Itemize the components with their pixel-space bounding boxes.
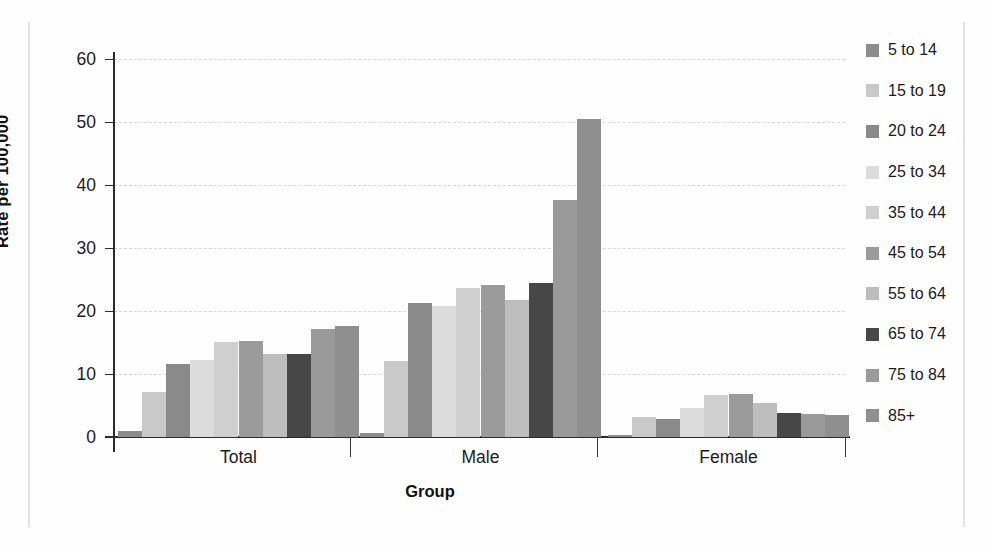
bar — [360, 433, 384, 437]
legend-swatch-icon — [866, 44, 879, 57]
bar — [408, 303, 432, 437]
bar-chart: 0102030405060 Rate per 100,000 TotalMale… — [0, 0, 991, 548]
bar — [166, 364, 190, 437]
legend-item[interactable]: 75 to 84 — [866, 355, 976, 396]
legend-label: 35 to 44 — [888, 204, 946, 222]
legend-swatch-icon — [866, 206, 879, 219]
bar — [632, 417, 656, 437]
bar — [335, 326, 359, 437]
legend-swatch-icon — [866, 369, 879, 382]
legend-item[interactable]: 15 to 19 — [866, 71, 976, 112]
bar — [190, 360, 214, 437]
legend-label: 65 to 74 — [888, 325, 946, 343]
bar — [118, 431, 142, 437]
group-label-male: Male — [360, 447, 601, 468]
legend-swatch-icon — [866, 328, 879, 341]
legend-swatch-icon — [866, 247, 879, 260]
legend-item[interactable]: 35 to 44 — [866, 192, 976, 233]
bar — [287, 354, 311, 437]
legend-item[interactable]: 45 to 54 — [866, 233, 976, 274]
x-axis-label: Group — [0, 482, 860, 501]
legend-label: 75 to 84 — [888, 366, 946, 384]
group-separator — [845, 437, 846, 457]
bar — [263, 354, 287, 437]
bar — [777, 413, 801, 437]
legend-label: 55 to 64 — [888, 285, 946, 303]
bar — [239, 341, 263, 437]
legend-swatch-icon — [866, 166, 879, 179]
legend-label: 85+ — [888, 407, 915, 425]
bar — [680, 408, 704, 437]
bar — [214, 342, 238, 437]
legend-label: 5 to 14 — [888, 41, 937, 59]
bar — [704, 395, 728, 437]
group-label-female: Female — [608, 447, 849, 468]
legend-label: 15 to 19 — [888, 82, 946, 100]
bar — [656, 419, 680, 437]
legend-item[interactable]: 85+ — [866, 395, 976, 436]
legend-label: 45 to 54 — [888, 244, 946, 262]
legend-item[interactable]: 25 to 34 — [866, 152, 976, 193]
group-separator — [597, 437, 598, 457]
bar — [801, 414, 825, 437]
legend-label: 25 to 34 — [888, 163, 946, 181]
legend-swatch-icon — [866, 287, 879, 300]
bar — [529, 283, 553, 437]
legend-swatch-icon — [866, 409, 879, 422]
bar — [825, 415, 849, 437]
legend-item[interactable]: 55 to 64 — [866, 274, 976, 315]
bar — [553, 200, 577, 437]
legend-item[interactable]: 5 to 14 — [866, 30, 976, 71]
group-label-total: Total — [118, 447, 359, 468]
legend-item[interactable]: 20 to 24 — [866, 111, 976, 152]
bar — [753, 403, 777, 437]
bar — [384, 361, 408, 437]
bar — [505, 300, 529, 437]
bar — [432, 306, 456, 437]
legend-swatch-icon — [866, 125, 879, 138]
bar — [577, 119, 601, 437]
legend-label: 20 to 24 — [888, 122, 946, 140]
bar — [311, 329, 335, 437]
legend-item[interactable]: 65 to 74 — [866, 314, 976, 355]
bar — [142, 392, 166, 437]
bar — [729, 394, 753, 437]
bar — [608, 435, 632, 437]
bar — [481, 285, 505, 437]
group-separator — [350, 437, 351, 457]
bar — [456, 288, 480, 437]
legend: 5 to 1415 to 1920 to 2425 to 3435 to 444… — [866, 30, 976, 436]
legend-swatch-icon — [866, 84, 879, 97]
